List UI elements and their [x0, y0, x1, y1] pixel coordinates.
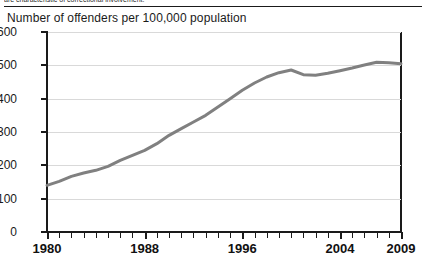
y-tick-label: 500 [0, 59, 17, 71]
x-tick-mark [218, 232, 219, 238]
x-tick-mark [328, 232, 329, 238]
x-tick-label: 2009 [387, 242, 416, 256]
y-tick-label: 200 [0, 159, 17, 171]
cropped-header-text: are characteristic of correctional invol… [4, 0, 304, 5]
frame-top-rule [4, 6, 422, 7]
x-tick-mark [181, 232, 182, 238]
x-tick-mark [132, 232, 133, 238]
y-tick-label: 100 [0, 193, 17, 205]
x-tick-mark [47, 232, 49, 239]
x-tick-label: 1988 [130, 242, 159, 256]
x-tick-label: 1996 [228, 242, 257, 256]
x-tick-mark [71, 232, 72, 238]
x-tick-mark [242, 232, 244, 239]
y-tick-label: 300 [0, 126, 17, 138]
x-tick-mark [169, 232, 170, 238]
x-tick-mark [108, 232, 109, 238]
x-tick-mark [267, 232, 268, 238]
x-tick-mark [157, 232, 158, 238]
x-tick-mark [352, 232, 353, 238]
x-tick-mark [59, 232, 60, 238]
y-tick-label: 0 [0, 226, 17, 238]
x-tick-mark [401, 232, 403, 239]
x-tick-mark [377, 232, 378, 238]
x-tick-mark [84, 232, 85, 238]
x-tick-label: 2004 [325, 242, 354, 256]
chart-title: Number of offenders per 100,000 populati… [7, 11, 246, 25]
x-tick-mark [389, 232, 390, 238]
x-tick-mark [303, 232, 304, 238]
x-tick-mark [96, 232, 97, 238]
data-series-line [47, 32, 401, 232]
x-tick-mark [291, 232, 292, 238]
x-tick-mark [279, 232, 280, 238]
x-tick-mark [230, 232, 231, 238]
y-tick-label: 400 [0, 93, 17, 105]
x-tick-mark [316, 232, 317, 238]
x-tick-mark [255, 232, 256, 238]
x-tick-label: 1980 [33, 242, 62, 256]
y-tick-label: 600 [0, 26, 17, 38]
plot-area: 0100200300400500600 19801988199620042009 [47, 32, 401, 232]
x-tick-mark [145, 232, 147, 239]
x-tick-mark [193, 232, 194, 238]
x-tick-mark [340, 232, 342, 239]
x-tick-mark [120, 232, 121, 238]
x-tick-mark [364, 232, 365, 238]
chart-page: are characteristic of correctional invol… [0, 0, 426, 265]
x-tick-mark [206, 232, 207, 238]
